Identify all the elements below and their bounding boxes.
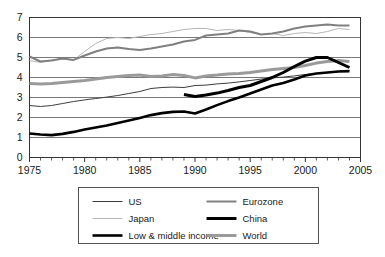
y-axis-tick-label: 7 [17, 11, 23, 23]
y-axis-tick-label: 6 [17, 31, 23, 43]
y-axis-tick-label: 5 [17, 51, 23, 63]
line-chart: 01234567 1975198019851990199520002005 US… [0, 0, 385, 257]
chart-legend: USEurozoneJapanChinaLow & middle incomeW… [79, 188, 319, 244]
y-axis-tick-label: 3 [17, 91, 23, 103]
legend-label-low-middle-income: Low & middle income [129, 230, 219, 241]
x-axis-tick-label: 1975 [18, 164, 42, 176]
legend-label-world: World [243, 230, 268, 241]
x-axis-tick-label: 2005 [349, 164, 373, 176]
y-axis-tick-label: 2 [17, 111, 23, 123]
legend-label-us: US [129, 196, 142, 207]
x-axis-tick-label: 1985 [128, 164, 152, 176]
legend-label-japan: Japan [129, 213, 155, 224]
x-axis-tick-label: 2000 [294, 164, 318, 176]
y-axis-tick-label: 4 [17, 71, 23, 83]
y-axis-tick-label: 1 [17, 131, 23, 143]
y-axis-tick-label: 0 [17, 151, 23, 163]
legend-label-china: China [243, 213, 269, 224]
x-axis-tick-label: 1980 [73, 164, 97, 176]
legend-label-eurozone: Eurozone [243, 196, 284, 207]
x-axis-tick-label: 1990 [183, 164, 207, 176]
x-axis-tick-label: 1995 [238, 164, 262, 176]
chart-container: 01234567 1975198019851990199520002005 US… [0, 0, 385, 257]
